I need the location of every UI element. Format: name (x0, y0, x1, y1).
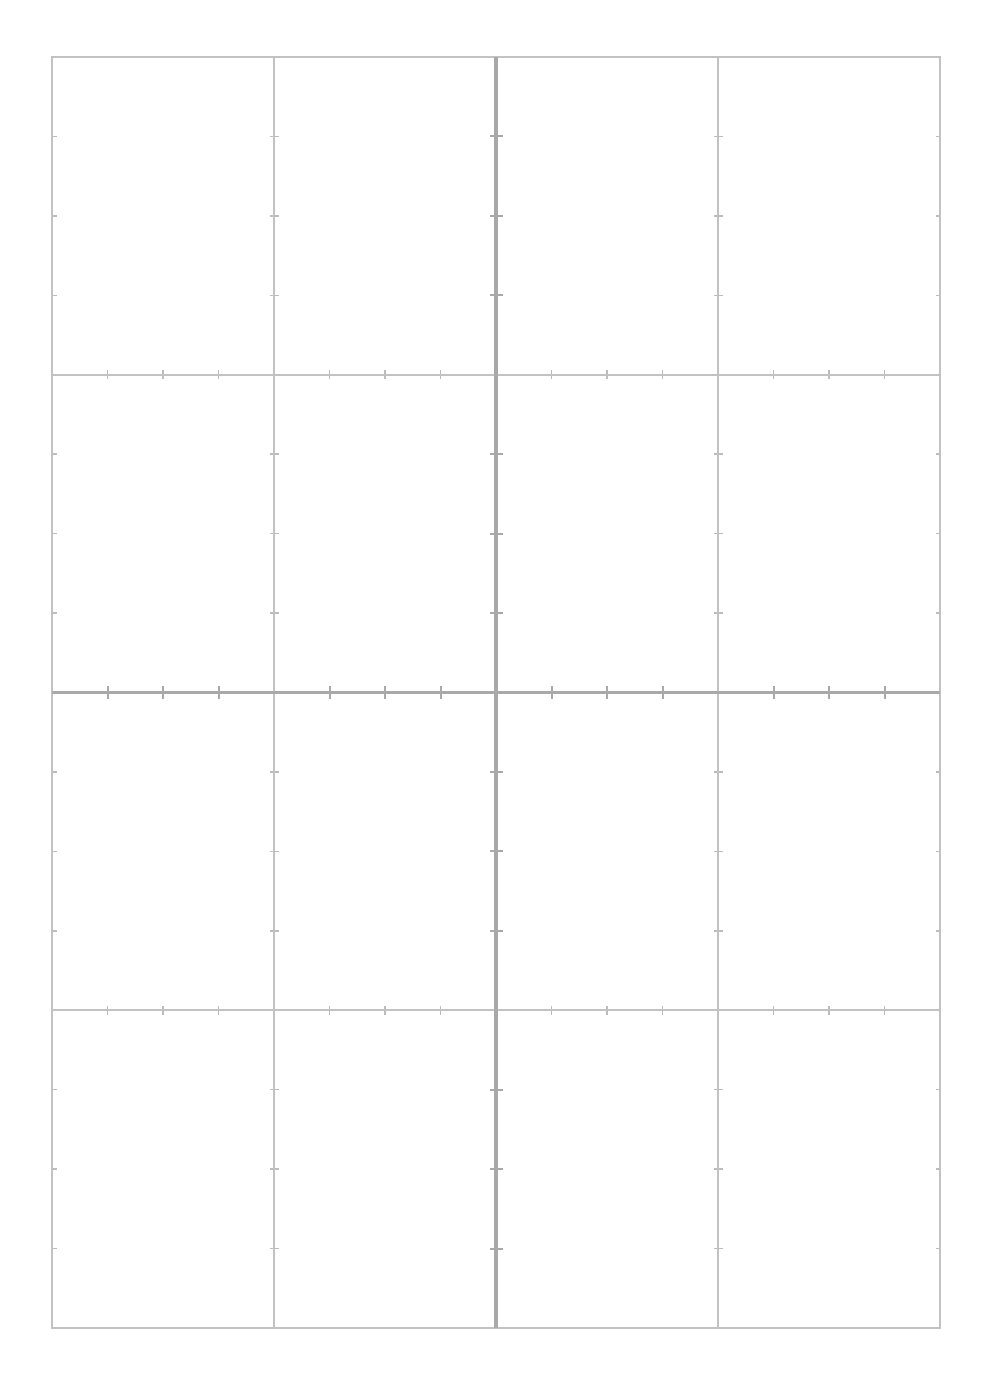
graph-paper-page (0, 0, 991, 1393)
grid-canvas (0, 0, 991, 1393)
